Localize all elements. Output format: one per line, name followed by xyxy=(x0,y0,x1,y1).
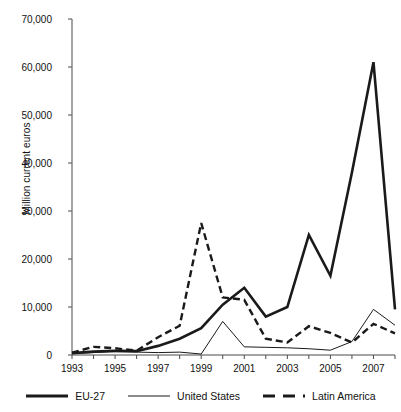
legend-item[interactable]: EU-27 xyxy=(25,390,105,402)
x-axis-tick-label: 2007 xyxy=(362,363,384,374)
y-axis-tick-label: 30,000 xyxy=(21,206,52,217)
x-axis-tick-labels: 19931995199719992001200320052007 xyxy=(0,361,401,379)
y-axis-tick-label: 70,000 xyxy=(21,14,52,25)
y-axis-tick-label: 20,000 xyxy=(21,254,52,265)
x-axis-tick-label: 2003 xyxy=(276,363,298,374)
x-axis-tick-label: 1995 xyxy=(104,363,126,374)
x-axis-tick-label: 2001 xyxy=(233,363,255,374)
x-axis-tick-label: 1993 xyxy=(61,363,83,374)
legend-label: United States xyxy=(177,390,240,402)
legend-item[interactable]: United States xyxy=(127,390,240,402)
y-axis-tick-label: 40,000 xyxy=(21,158,52,169)
legend-swatch xyxy=(127,390,171,402)
y-axis-tick-labels: 010,00020,00030,00040,00050,00060,00070,… xyxy=(0,0,62,412)
line-chart: Million current euros 010,00020,00030,00… xyxy=(0,0,401,412)
legend-swatch xyxy=(262,390,306,402)
legend-item[interactable]: Latin America xyxy=(262,390,376,402)
x-axis-tick-label: 1999 xyxy=(190,363,212,374)
legend-label: EU-27 xyxy=(75,390,105,402)
x-axis-tick-label: 1997 xyxy=(147,363,169,374)
x-axis-tick-label: 2005 xyxy=(319,363,341,374)
series-line-eu-27 xyxy=(72,62,395,353)
chart-legend: EU-27United StatesLatin America xyxy=(0,386,401,406)
y-axis-tick-label: 50,000 xyxy=(21,110,52,121)
legend-label: Latin America xyxy=(312,390,376,402)
y-axis-tick-label: 0 xyxy=(46,350,52,361)
series-line-united-states xyxy=(72,309,395,354)
series-line-latin-america xyxy=(72,223,395,353)
legend-swatch xyxy=(25,390,69,402)
y-axis-tick-label: 60,000 xyxy=(21,62,52,73)
y-axis-tick-label: 10,000 xyxy=(21,302,52,313)
